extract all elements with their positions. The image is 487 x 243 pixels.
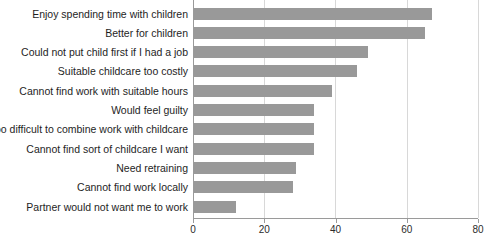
bar-row: Need retraining <box>0 162 487 181</box>
bar-row: Would feel guilty <box>0 104 487 123</box>
bar <box>194 104 314 116</box>
bar <box>194 123 314 135</box>
bar-row: Suitable childcare too costly <box>0 65 487 84</box>
bar-row: Cannot find work with suitable hours <box>0 85 487 104</box>
x-tick-label: 20 <box>249 224 279 236</box>
bar-row: Partner would not want me to work <box>0 201 487 220</box>
bar-row: Cannot find sort of childcare I want <box>0 143 487 162</box>
x-tick-label: 80 <box>463 224 487 236</box>
bar-chart: Enjoy spending time with childrenBetter … <box>0 0 487 243</box>
bar-row: Could not put child first if I had a job <box>0 46 487 65</box>
x-tick-mark <box>478 219 479 223</box>
category-label: Too difficult to combine work with child… <box>0 123 188 135</box>
category-label: Cannot find sort of childcare I want <box>26 143 188 155</box>
category-label: Enjoy spending time with children <box>32 8 188 20</box>
bar <box>194 65 357 77</box>
bar <box>194 8 432 20</box>
x-tick-mark <box>336 219 337 223</box>
bar <box>194 85 332 97</box>
bar-row: Too difficult to combine work with child… <box>0 123 487 142</box>
category-label: Could not put child first if I had a job <box>21 46 188 58</box>
bar-row: Better for children <box>0 27 487 46</box>
x-tick-mark <box>407 219 408 223</box>
x-tick-mark <box>193 219 194 223</box>
bar <box>194 46 368 58</box>
bar <box>194 143 314 155</box>
bar <box>194 181 293 193</box>
bar <box>194 201 236 213</box>
x-tick-mark <box>264 219 265 223</box>
x-tick-label: 60 <box>392 224 422 236</box>
bar-row: Cannot find work locally <box>0 181 487 200</box>
category-label: Would feel guilty <box>111 104 188 116</box>
category-label: Better for children <box>105 27 188 39</box>
category-label: Partner would not want me to work <box>26 201 188 213</box>
x-tick-label: 0 <box>178 224 208 236</box>
bar <box>194 27 425 39</box>
category-label: Cannot find work with suitable hours <box>19 85 188 97</box>
category-label: Suitable childcare too costly <box>58 65 188 77</box>
bar <box>194 162 296 174</box>
x-tick-label: 40 <box>321 224 351 236</box>
bar-row: Enjoy spending time with children <box>0 8 487 27</box>
category-label: Cannot find work locally <box>77 181 188 193</box>
category-label: Need retraining <box>116 162 188 174</box>
